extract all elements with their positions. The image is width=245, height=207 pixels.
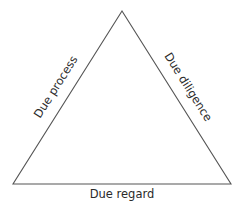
label-left-side: Due process (31, 53, 81, 121)
label-base: Due regard (90, 187, 155, 201)
triangle-diagram: Due process Due diligence Due regard (0, 0, 245, 207)
